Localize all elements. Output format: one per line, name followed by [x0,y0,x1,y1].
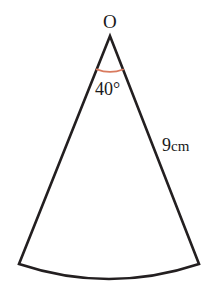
sector-diagram: O 40° 9cm [0,0,224,287]
vertex-label-o: O [103,12,117,31]
radius-label: 9cm [162,136,189,154]
radius-unit-label: cm [171,138,189,154]
sector-figure-svg [0,0,224,287]
radius-value: 9 [162,135,171,155]
central-angle-label: 40° [95,80,120,98]
